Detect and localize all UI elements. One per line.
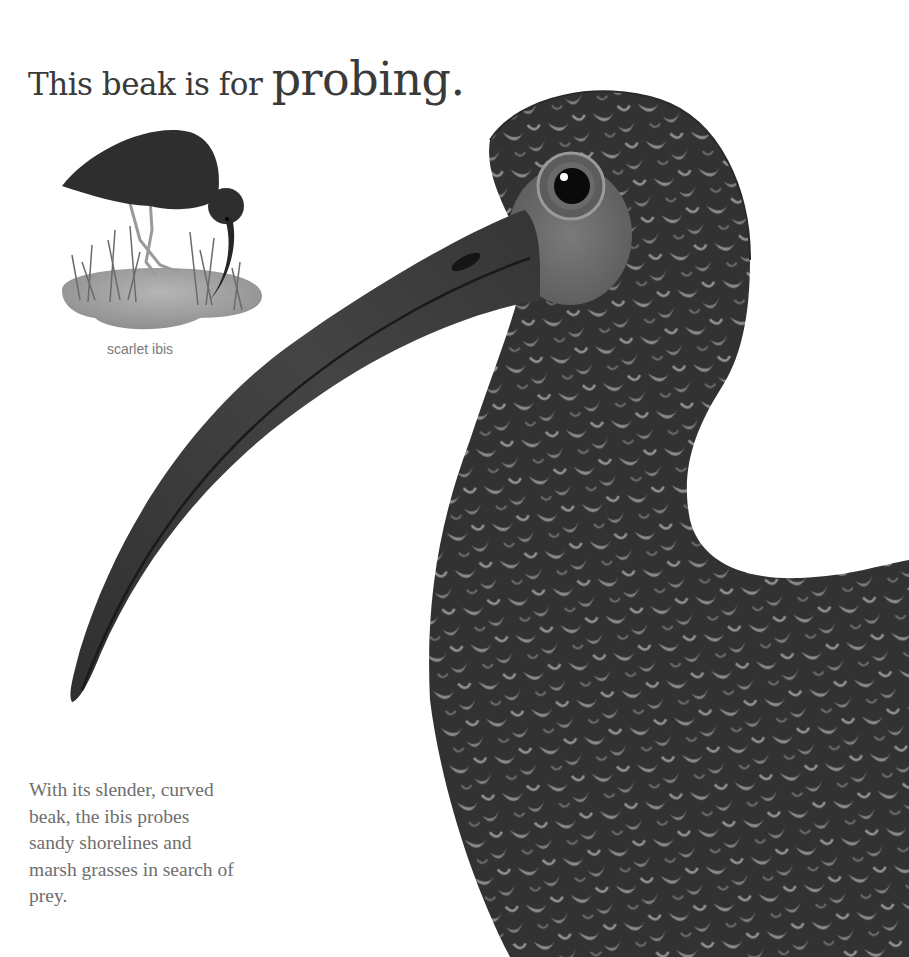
marsh-water bbox=[62, 268, 262, 329]
headline-lead: This beak is for bbox=[28, 66, 272, 102]
book-page: This beak is for probing. scarlet ibis W… bbox=[0, 0, 909, 957]
headline-emphasis: probing. bbox=[272, 52, 465, 106]
small-ibis-body bbox=[62, 130, 219, 209]
body-paragraph: With its slender, curved beak, the ibis … bbox=[29, 777, 234, 910]
page-title: This beak is for probing. bbox=[28, 52, 465, 106]
inset-caption: scarlet ibis bbox=[50, 341, 230, 357]
eye-icon bbox=[538, 153, 604, 219]
inset-illustration bbox=[62, 130, 262, 329]
